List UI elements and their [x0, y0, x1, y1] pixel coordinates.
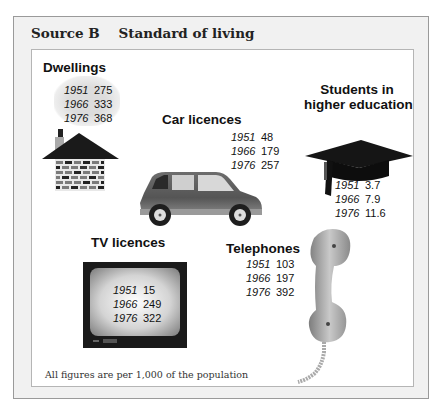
year: 1951 [335, 178, 365, 192]
value: 249 [143, 297, 161, 311]
year: 1966 [113, 297, 143, 311]
value: 197 [276, 271, 294, 285]
year: 1951 [113, 283, 143, 297]
year: 1966 [246, 271, 276, 285]
car-icon [138, 169, 264, 229]
value: 333 [94, 97, 112, 111]
standard-of-living-panel: Dwellings 1951275 1966333 1976368 C [31, 49, 414, 387]
telephones-heading: Telephones [226, 241, 300, 256]
footnote: All figures are per 1,000 of the populat… [45, 369, 248, 380]
value: 368 [94, 111, 112, 125]
value: 179 [261, 144, 279, 158]
source-b-frame: Source B Standard of living Dwellings 19… [13, 16, 429, 399]
year: 1951 [246, 257, 276, 271]
year: 1951 [64, 83, 94, 97]
car-licences-heading: Car licences [162, 112, 242, 127]
year: 1976 [246, 285, 276, 299]
stat-row: 1976322 [113, 311, 161, 325]
tv-licences-heading: TV licences [91, 235, 165, 250]
stat-row: 1966333 [64, 97, 112, 111]
tv-licences-stats: 195115 1966249 1976322 [113, 283, 161, 325]
students-heading: Students in higher education [304, 82, 410, 112]
car-licences-stats: 195148 1966179 1976257 [231, 130, 279, 172]
telephone-handset-icon [294, 226, 354, 392]
source-title: Source B Standard of living [31, 25, 254, 41]
value: 11.6 [365, 206, 386, 220]
students-heading-line1: Students in [304, 82, 410, 97]
value: 3.7 [365, 178, 380, 192]
value: 392 [276, 285, 294, 299]
dwellings-heading: Dwellings [43, 60, 106, 75]
stat-row: 1951275 [64, 83, 112, 97]
stat-row: 1976368 [64, 111, 112, 125]
stat-row: 195115 [113, 283, 161, 297]
year: 1966 [64, 97, 94, 111]
telephones-stats: 1951103 1966197 1976392 [246, 257, 294, 299]
value: 7.9 [365, 192, 380, 206]
house-icon [41, 127, 121, 193]
students-stats: 19513.7 19667.9 197611.6 [335, 178, 386, 220]
year: 1966 [231, 144, 261, 158]
year: 1966 [335, 192, 365, 206]
dwellings-stats: 1951275 1966333 1976368 [64, 83, 112, 125]
year: 1951 [231, 130, 261, 144]
stat-row: 1966249 [113, 297, 161, 311]
value: 48 [261, 130, 273, 144]
year: 1976 [64, 111, 94, 125]
value: 322 [143, 311, 161, 325]
stat-row: 19667.9 [335, 192, 386, 206]
stat-row: 195148 [231, 130, 279, 144]
stat-row: 19513.7 [335, 178, 386, 192]
stat-row: 1951103 [246, 257, 294, 271]
stat-row: 197611.6 [335, 206, 386, 220]
stat-row: 1976392 [246, 285, 294, 299]
stat-row: 1966179 [231, 144, 279, 158]
students-heading-line2: higher education [304, 97, 410, 112]
value: 275 [94, 83, 112, 97]
year: 1976 [335, 206, 365, 220]
value: 103 [276, 257, 294, 271]
year: 1976 [113, 311, 143, 325]
stat-row: 1966197 [246, 271, 294, 285]
value: 15 [143, 283, 155, 297]
